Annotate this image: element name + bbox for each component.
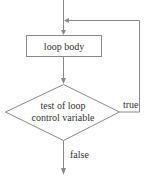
loop-body-label: loop body [44,41,84,52]
true-edge-label: true [123,99,139,110]
loop-flowchart: loop body test of loop control variable … [0,0,148,180]
arrow-exit-icon [61,168,66,175]
false-edge-label: false [70,149,89,160]
loop-body-node: loop body [27,36,102,57]
test-decision-node: test of loop control variable [6,85,120,141]
arrow-into-loop-body-icon [61,30,66,35]
arrow-loopback-icon [64,18,69,23]
test-label-line-1: test of loop [41,100,86,111]
arrow-into-test-icon [61,78,66,84]
test-label-line-2: control variable [31,112,95,123]
